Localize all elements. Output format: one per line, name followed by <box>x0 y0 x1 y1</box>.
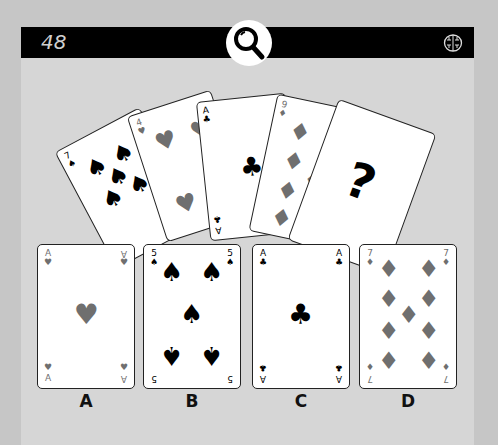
hint-button[interactable] <box>226 20 272 66</box>
option-card-c[interactable]: A ♣ A ♣ ♣ ♣ A ♣ A <box>252 244 350 389</box>
magnifier-icon <box>226 20 272 66</box>
option-label-a[interactable]: A <box>36 391 136 411</box>
option-card-b[interactable]: 5 ♠ 5 ♠ ♠ ♠ ♠ ♠ ♠ 5 5 <box>143 244 241 389</box>
option-label-b[interactable]: B <box>142 391 242 411</box>
option-label-c[interactable]: C <box>251 391 351 411</box>
option-card-d[interactable]: 7 ♦ 7 ♦ ♦ ♦ ♦ ♦ ♦ ♦ ♦ ♦ ♦ ♦ 7 ♦ 7 <box>359 244 457 389</box>
brain-icon[interactable] <box>443 33 463 53</box>
level-number: 48 <box>41 30 66 54</box>
option-label-d[interactable]: D <box>358 391 458 411</box>
option-card-a[interactable]: A ♥ A ♥ ♥ ♥ A ♥ A <box>37 244 135 389</box>
